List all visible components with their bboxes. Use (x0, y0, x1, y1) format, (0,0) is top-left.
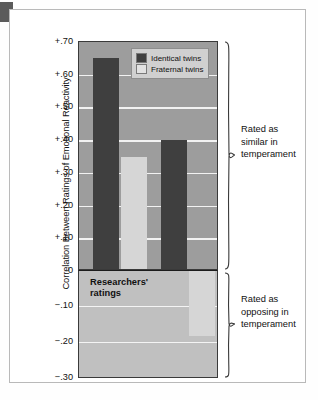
legend-item-identical: Identical twins (136, 53, 203, 63)
annotation-opposing: Rated as opposing in temperament (223, 272, 318, 378)
legend-swatch-fraternal-icon (136, 64, 147, 74)
legend-label-fraternal: Fraternal twins (151, 65, 203, 74)
annotation-opposing-line1: Rated as (241, 293, 296, 306)
annotation-opposing-line2: opposing in (241, 306, 296, 319)
annotation-similar-line2: similar in (241, 136, 296, 149)
ytick-neg030: −.30 (55, 372, 78, 382)
legend-item-fraternal: Fraternal twins (136, 64, 203, 74)
ytick-010: +.10 (55, 232, 78, 242)
legend-swatch-identical-icon (136, 53, 147, 63)
annotation-similar-line3: temperament (241, 148, 296, 161)
annotation-opposing-text: Rated as opposing in temperament (241, 293, 296, 331)
annotation-opposing-line3: temperament (241, 318, 296, 331)
ytick-050: +.50 (55, 101, 78, 111)
legend-label-identical: Identical twins (151, 54, 201, 63)
ytick-neg020: −.20 (55, 336, 78, 346)
ytick-070: +.70 (55, 36, 78, 46)
figure-page: Correlation Between Ratings of Emotional… (0, 0, 318, 400)
annotation-similar-text: Rated as similar in temperament (241, 123, 296, 161)
annotation-similar-line1: Rated as (241, 123, 296, 136)
chart-legend: Identical twins Fraternal twins (131, 48, 209, 79)
brace-similar-icon (223, 41, 237, 270)
ytick-040: +.40 (55, 134, 78, 144)
plot-area: Parents' ratings Researchers' ratings +.… (78, 41, 218, 378)
figure-frame: Correlation Between Ratings of Emotional… (9, 9, 306, 383)
brace-opposing-icon (223, 272, 237, 378)
ytick-000: 0 (68, 265, 78, 275)
ytick-020: +.20 (55, 200, 78, 210)
ytick-060: +.60 (55, 69, 78, 79)
ytick-neg010: −.10 (55, 300, 78, 310)
ytick-030: +.30 (55, 167, 78, 177)
annotation-similar: Rated as similar in temperament (223, 41, 318, 270)
y-axis-ticks: +.70 +.60 +.50 +.40 +.30 +.20 +.10 0 −.1… (78, 41, 218, 378)
